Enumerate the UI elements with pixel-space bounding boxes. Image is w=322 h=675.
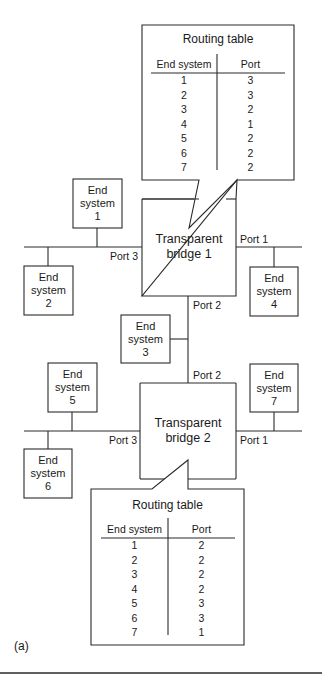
bridge-2-port-3-label: Port 3 <box>109 434 137 446</box>
table-cell: 2 <box>217 102 284 117</box>
end-system-4: End system 4 <box>250 267 298 316</box>
routing-table-1-title: Routing table <box>142 32 294 46</box>
bridge-1-port-3-label: Port 3 <box>110 250 138 262</box>
table-cell: 2 <box>168 538 235 553</box>
table-cell: 3 <box>168 611 235 626</box>
end-system-3: End system 3 <box>121 315 170 363</box>
table-cell: 4 <box>101 582 168 597</box>
end-system-6: End system 6 <box>24 449 72 498</box>
routing-table-2-col-end-system: End system <box>101 523 168 535</box>
transparent-bridge-diagram: Routing table End system Port 1 3 2 3 3 … <box>0 0 322 675</box>
table-cell: 7 <box>151 160 217 175</box>
table-cell: 7 <box>101 625 168 640</box>
table-cell: 2 <box>168 582 235 597</box>
end-system-2: End system 2 <box>24 266 73 315</box>
bridge-1-label: Transparent bridge 1 <box>142 232 236 262</box>
bridge-1-port-2-label: Port 2 <box>193 299 221 311</box>
table-cell: 2 <box>217 131 284 146</box>
bridge-1-port-1-label: Port 1 <box>240 233 268 245</box>
bridge-2-port-2-label: Port 2 <box>193 369 221 381</box>
table-cell: 2 <box>217 160 284 175</box>
table-cell: 5 <box>151 131 217 146</box>
table-cell: 2 <box>101 553 168 568</box>
table-cell: 3 <box>217 73 284 88</box>
end-system-5: End system 5 <box>48 363 97 412</box>
table-cell: 3 <box>101 567 168 582</box>
table-cell: 3 <box>217 88 284 103</box>
table-cell: 3 <box>151 102 217 117</box>
routing-table-1-col-end-system: End system <box>151 58 217 70</box>
table-cell: 2 <box>151 88 217 103</box>
end-system-7: End system 7 <box>250 364 298 412</box>
table-cell: 1 <box>151 73 217 88</box>
routing-table-2-col-port: Port <box>168 523 235 535</box>
table-cell: 6 <box>101 611 168 626</box>
bridge-2-label: Transparent bridge 2 <box>140 416 236 446</box>
table-cell: 3 <box>168 596 235 611</box>
table-cell: 1 <box>101 538 168 553</box>
table-cell: 2 <box>168 553 235 568</box>
table-cell: 2 <box>217 146 284 161</box>
table-cell: 6 <box>151 146 217 161</box>
routing-table-2-title: Routing table <box>91 498 244 512</box>
routing-table-1-col-port: Port <box>217 58 284 70</box>
bridge-2-port-1-label: Port 1 <box>240 434 268 446</box>
table-cell: 2 <box>168 567 235 582</box>
table-cell: 5 <box>101 596 168 611</box>
table-cell: 4 <box>151 117 217 132</box>
table-cell: 1 <box>217 117 284 132</box>
table-cell: 1 <box>168 625 235 640</box>
end-system-1: End system 1 <box>73 179 122 228</box>
figure-label: (a) <box>14 639 29 653</box>
